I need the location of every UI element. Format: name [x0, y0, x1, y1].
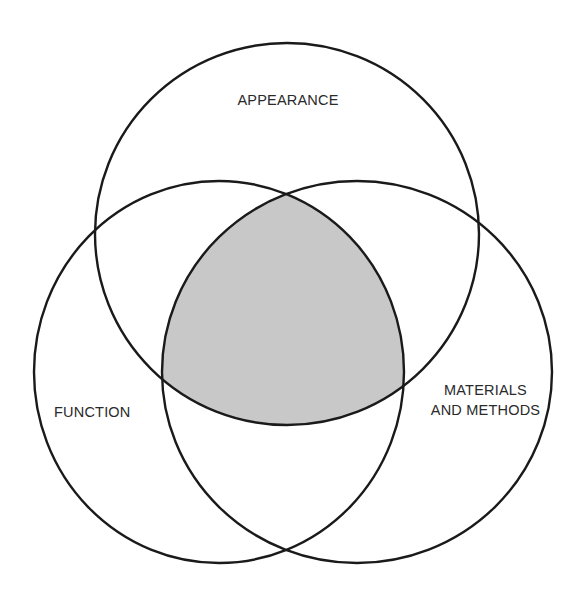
- function-label: FUNCTION: [54, 402, 131, 422]
- triple-intersection-region: [162, 181, 552, 563]
- materials-label-line1: MATERIALS: [418, 380, 553, 400]
- materials-and-methods-label: MATERIALS AND METHODS: [418, 380, 553, 420]
- appearance-label: APPEARANCE: [213, 90, 363, 110]
- materials-label-line2: AND METHODS: [418, 400, 553, 420]
